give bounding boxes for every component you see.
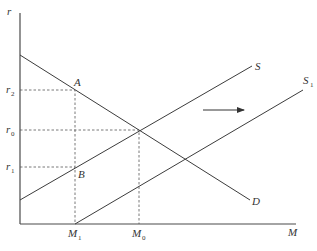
curve-label-d: D	[251, 195, 260, 207]
money-market-diagram: r M S S 1 D A B r 2 r 0 r 1 M 1 M 0	[0, 0, 317, 251]
curve-label-s1: S	[303, 74, 309, 86]
point-label-a: A	[73, 76, 81, 88]
point-label-b: B	[78, 168, 85, 180]
curve-label-s: S	[255, 60, 261, 72]
tick-label-r2-sub: 2	[11, 90, 15, 98]
demand-curve-d	[20, 55, 250, 200]
tick-label-r1-sub: 1	[11, 167, 15, 175]
curve-label-s1-sub: 1	[310, 81, 314, 89]
tick-label-m0-sub: 0	[142, 234, 146, 242]
tick-label-m1-sub: 1	[78, 234, 82, 242]
y-axis-label: r	[7, 5, 12, 17]
x-axis-label: M	[287, 226, 298, 238]
tick-label-m1: M	[67, 227, 78, 239]
tick-label-r0-sub: 0	[11, 130, 15, 138]
guide-r2-m1	[20, 90, 75, 224]
supply-curve-s1	[75, 90, 303, 224]
tick-label-m0: M	[131, 227, 142, 239]
